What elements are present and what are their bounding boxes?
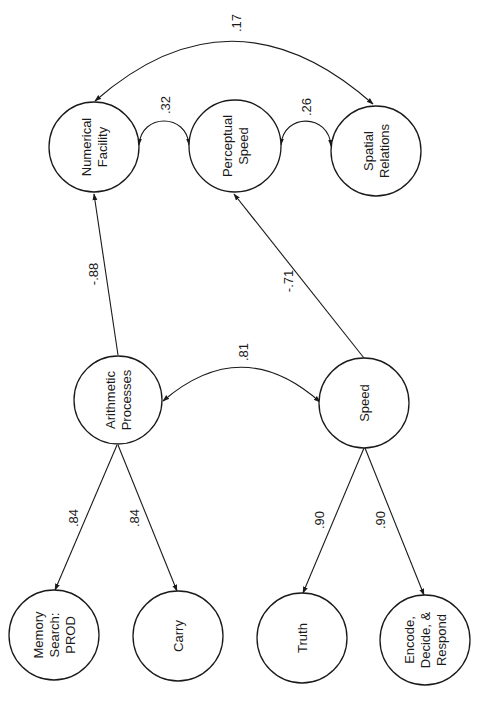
node-label-line: Speed [357,384,372,422]
edge-label-speed-ps: -.71 [281,270,296,292]
node-label-line: Carry [171,620,186,652]
edge-label-ps-sr: .26 [299,98,314,116]
node-truth: Truth [257,593,347,683]
node-arithmetic-processes: Arithmetic Processes [74,356,162,444]
edge-label-speed-edr: .90 [373,511,388,529]
node-label-line: Search: [47,613,62,658]
edge-label-ap-speed: .81 [236,343,251,361]
edge-label-nf-ps: .32 [158,96,173,114]
node-numerical-facility: Numerical Facility [49,102,139,192]
edge-nf-ps-correlation [139,121,189,145]
node-label-line: Speed [236,127,251,165]
node-speed: Speed [319,358,409,448]
edge-label-nf-sr: .17 [229,14,244,32]
edge-label-ap-carry: .84 [127,509,142,527]
edge-speed-ps-path [234,194,364,358]
edge-nf-sr-correlation [95,41,373,104]
node-label-line: Respond [434,614,449,666]
edge-ap-speed-correlation [163,367,320,402]
node-label-line: Memory [31,611,46,658]
path-diagram: .17 .32 .26 .81 -.88 -.71 .84 .84 .90 .9… [0,0,479,713]
node-label-line: Truth [295,623,310,653]
node-encode-decide-respond: Encode, Decide, & Respond [380,595,470,685]
node-label-line: Decide, & [418,611,433,668]
edge-ps-sr-correlation [281,121,331,146]
edge-label-speed-truth: .90 [312,511,327,529]
node-label-line: Processes [119,369,134,430]
edge-label-ap-nf: -.88 [86,263,101,285]
node-memory-search-prod: Memory Search: PROD [9,590,99,680]
node-label-line: Arithmetic [103,371,118,429]
node-carry: Carry [133,591,223,681]
edge-ap-memory-loading [55,445,117,590]
node-label-line: PROD [63,616,78,654]
node-label-line: Numerical [79,118,94,177]
node-label-line: Encode, [402,616,417,664]
edge-label-ap-memory: .84 [66,509,81,527]
node-spatial-relations: Spatial Relations [331,106,421,196]
node-label-line: Spatial [361,131,376,171]
node-perceptual-speed: Perceptual Speed [189,100,281,192]
node-label-line: Facility [95,126,110,167]
node-label-line: Perceptual [220,115,235,177]
node-label-line: Relations [377,123,392,178]
